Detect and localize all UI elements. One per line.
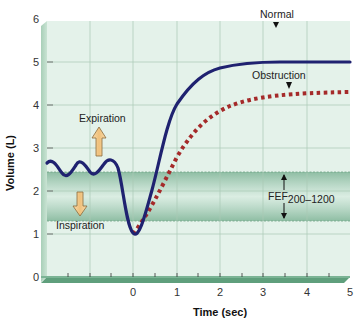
y-tick-0: 0 [33, 271, 39, 283]
floor-edge [41, 276, 350, 278]
y-tick-2: 2 [33, 185, 39, 197]
y-tick-1: 1 [33, 228, 39, 240]
x-tick-2: 2 [217, 286, 223, 298]
x-tick-1: 1 [174, 286, 180, 298]
normal-label: Normal [260, 8, 294, 20]
inspiration-label: Inspiration [56, 219, 105, 231]
y-tick-4: 4 [33, 99, 39, 111]
x-tick-3: 3 [260, 286, 266, 298]
x-tick-labels: 0 1 2 3 4 5 [130, 286, 353, 298]
y-axis-title: Volume (L) [4, 135, 16, 191]
fef-label: FEF [268, 190, 288, 202]
x-axis-title: Time (sec) [193, 306, 248, 318]
y-tick-6: 6 [33, 13, 39, 25]
chart: 6 5 4 3 2 1 0 0 1 2 3 4 5 Time (sec) Vol… [0, 0, 357, 323]
expiration-label: Expiration [79, 112, 126, 124]
fef-subscript: 200–1200 [288, 193, 335, 205]
left-wall [41, 21, 47, 282]
obstruction-label: Obstruction [252, 69, 306, 81]
y-tick-5: 5 [33, 56, 39, 68]
x-tick-0: 0 [130, 286, 136, 298]
x-tick-4: 4 [304, 286, 310, 298]
x-tick-5: 5 [347, 286, 353, 298]
y-tick-3: 3 [33, 142, 39, 154]
y-tick-labels: 6 5 4 3 2 1 0 [33, 13, 39, 283]
plot-area [47, 21, 350, 277]
